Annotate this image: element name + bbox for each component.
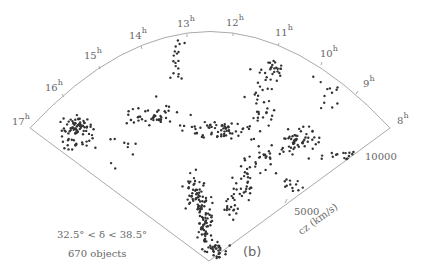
- label-14h: 14h: [129, 28, 147, 41]
- wedge-diagram: [0, 0, 422, 268]
- label-17h: 17h: [12, 114, 30, 127]
- label-13h: 13h: [177, 16, 195, 29]
- label-9h: 9h: [363, 76, 375, 89]
- label-8h: 8h: [397, 113, 409, 126]
- label-10h: 10h: [320, 46, 338, 59]
- object-count: 670 objects: [68, 248, 126, 259]
- wedge-edge-17h: [30, 128, 209, 261]
- label-15h: 15h: [84, 48, 102, 61]
- hour-ticks: [62, 33, 358, 97]
- wedge-edge-8h: [209, 128, 390, 261]
- radial-label-10000: 10000: [365, 151, 397, 162]
- label-12h: 12h: [226, 15, 244, 28]
- declination-range: 32.5° < δ < 38.5°: [57, 229, 147, 240]
- label-16h: 16h: [45, 80, 63, 93]
- panel-label: (b): [243, 244, 261, 259]
- label-11h: 11h: [275, 25, 293, 38]
- tick-5000: [285, 199, 287, 203]
